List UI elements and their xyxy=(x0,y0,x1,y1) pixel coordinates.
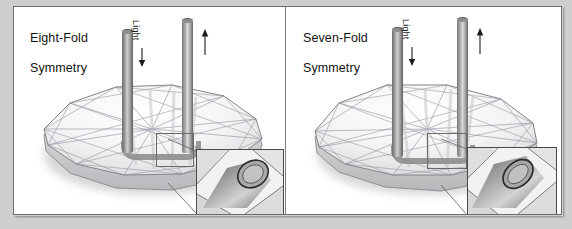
inset-seven-fold xyxy=(467,147,557,214)
input-rod-eight-fold xyxy=(122,31,133,153)
output-rod-cap-eight-fold xyxy=(182,18,193,23)
up-arrow-icon-eight-fold xyxy=(200,28,210,56)
panel-seven-fold: Seven-Fold Symmetry xyxy=(287,7,561,214)
up-arrow-icon-seven-fold xyxy=(475,27,485,55)
panel-title-line1: Seven-Fold xyxy=(303,31,368,45)
panel-title-line1: Eight-Fold xyxy=(30,31,88,45)
panel-eight-fold: Eight-Fold Symmetry xyxy=(14,7,285,214)
input-rod-seven-fold xyxy=(392,29,403,157)
figure-frame: Eight-Fold Symmetry xyxy=(13,6,562,215)
down-arrow-icon-seven-fold xyxy=(407,47,417,67)
figure-root: Eight-Fold Symmetry xyxy=(0,0,572,229)
panel-title-seven-fold: Seven-Fold Symmetry xyxy=(303,16,368,76)
panel-divider xyxy=(285,7,286,214)
light-label-eight-fold: Light xyxy=(131,20,141,41)
panel-title-eight-fold: Eight-Fold Symmetry xyxy=(30,16,88,76)
inset-eight-fold xyxy=(196,149,284,214)
inset-source-box-seven-fold xyxy=(427,133,467,169)
output-rod-cap-seven-fold xyxy=(457,17,468,22)
light-label-seven-fold: Light xyxy=(401,19,411,40)
down-arrow-icon-eight-fold xyxy=(137,48,147,68)
inset-source-box-eight-fold xyxy=(156,133,194,167)
